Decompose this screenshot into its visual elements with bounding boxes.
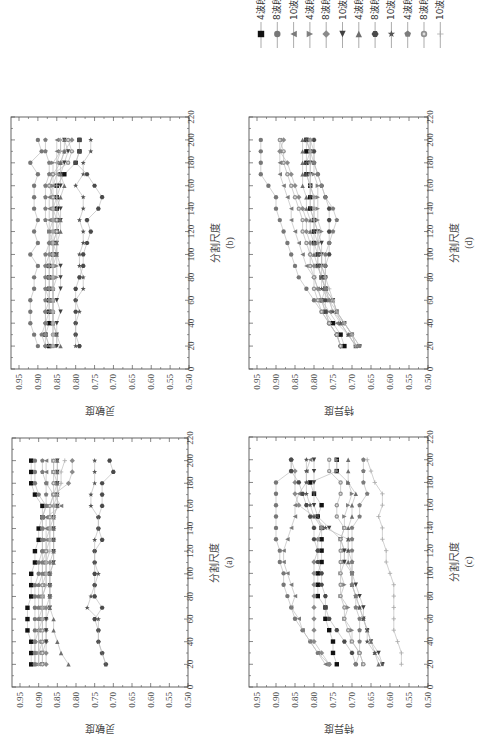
data-point xyxy=(58,184,62,188)
scale-axis: 020406080100120140160180200220 xyxy=(11,110,196,372)
data-point xyxy=(281,161,285,165)
legend-item: 10波段-DFC xyxy=(337,0,348,48)
data-point xyxy=(278,218,282,222)
scale-tick-label: 40 xyxy=(186,318,196,328)
data-point xyxy=(36,172,40,176)
data-point xyxy=(43,149,48,153)
legend-item: 8波段-PCA xyxy=(418,0,429,48)
scale-tick-label: 80 xyxy=(425,272,435,282)
data-point xyxy=(281,571,285,575)
data-point xyxy=(300,172,304,176)
data-point xyxy=(384,548,388,552)
data-point xyxy=(357,616,362,620)
data-point xyxy=(58,287,62,291)
data-point xyxy=(312,298,316,302)
panel-d: 0.950.900.850.800.750.700.650.600.550.50… xyxy=(249,110,475,417)
data-point xyxy=(392,617,396,621)
data-point xyxy=(338,571,342,575)
data-point xyxy=(312,206,316,210)
value-tick-label: 0.90 xyxy=(34,692,44,708)
data-point xyxy=(350,560,355,564)
value-tick-label: 0.75 xyxy=(90,374,100,390)
data-point xyxy=(297,275,301,279)
data-point xyxy=(335,503,339,507)
panel-a: 0.950.900.850.800.750.700.650.600.550.50… xyxy=(12,431,235,735)
data-point xyxy=(353,605,358,609)
value-tick-label: 0.85 xyxy=(290,692,300,708)
data-point xyxy=(66,138,70,142)
legend-label: 10波段-PCA xyxy=(434,0,445,20)
scale-tick-label: 220 xyxy=(425,110,435,124)
data-point xyxy=(58,229,62,233)
data-point xyxy=(350,492,354,496)
data-point xyxy=(66,662,70,666)
data-point xyxy=(327,241,332,245)
data-point xyxy=(59,470,63,474)
data-point xyxy=(338,583,342,587)
scale-tick-label: 40 xyxy=(425,318,435,328)
scale-tick-label: 160 xyxy=(186,178,196,192)
data-point xyxy=(285,172,289,176)
value-tick-label: 0.75 xyxy=(328,374,338,390)
data-point xyxy=(399,662,403,666)
data-point xyxy=(327,252,332,256)
data-point xyxy=(25,628,29,632)
series-8波段-DFC xyxy=(289,457,332,667)
scale-tick-label: 80 xyxy=(186,272,196,282)
data-point xyxy=(346,503,350,507)
scale-tick-label: 100 xyxy=(425,566,435,580)
data-point xyxy=(327,321,331,325)
legend-marker-triangle-up-icon xyxy=(356,31,362,37)
scale-tick-label: 40 xyxy=(185,637,195,647)
data-point xyxy=(346,458,350,462)
data-point xyxy=(296,480,301,484)
value-tick-label: 0.60 xyxy=(385,374,395,390)
data-point xyxy=(107,459,112,463)
data-point xyxy=(285,195,289,199)
data-point xyxy=(285,537,289,541)
data-point xyxy=(259,149,263,153)
legend-label: 4波段-MSC xyxy=(353,0,364,20)
data-point xyxy=(36,264,40,268)
data-point xyxy=(92,481,97,486)
data-point xyxy=(323,594,328,598)
data-point xyxy=(380,503,384,507)
data-point xyxy=(285,241,289,245)
data-point xyxy=(100,195,105,199)
data-point xyxy=(51,481,55,485)
x-axis-title: 分割尺度 xyxy=(208,543,220,583)
data-point xyxy=(77,344,82,348)
data-point xyxy=(278,138,282,142)
data-point xyxy=(392,628,396,632)
data-point xyxy=(312,458,316,462)
data-point xyxy=(77,309,82,314)
data-point xyxy=(399,651,403,655)
data-point xyxy=(62,184,66,188)
value-tick-label: 0.55 xyxy=(404,374,414,390)
data-point xyxy=(51,617,55,621)
data-point xyxy=(259,172,263,176)
legend-marker-pentagon-icon xyxy=(404,30,411,36)
data-point xyxy=(338,344,342,348)
scale-tick-label: 180 xyxy=(185,476,195,490)
scale-tick-label: 20 xyxy=(185,659,195,669)
series-line xyxy=(57,140,68,346)
data-point xyxy=(92,184,97,188)
data-point xyxy=(361,662,365,666)
data-point xyxy=(346,560,350,564)
legend-item: 10波段-MSC xyxy=(385,0,396,48)
data-point xyxy=(32,229,36,233)
panel-b: 0.950.900.850.800.750.700.650.600.550.50… xyxy=(11,110,236,417)
legend-marker-circle-icon xyxy=(274,31,280,37)
data-point xyxy=(300,252,304,256)
data-point xyxy=(274,206,278,210)
data-point xyxy=(338,537,342,541)
scale-tick-label: 180 xyxy=(425,475,435,489)
value-tick-label: 0.65 xyxy=(127,692,137,708)
data-point xyxy=(66,481,71,486)
data-point xyxy=(59,651,63,655)
data-point xyxy=(29,572,33,576)
data-point xyxy=(58,344,62,348)
data-point xyxy=(77,263,82,268)
panel-label: (c) xyxy=(463,556,475,567)
